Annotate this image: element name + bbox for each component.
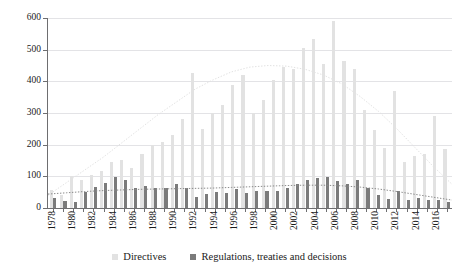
x-axis-tick-label: 1994 [210, 211, 220, 230]
trendline-layer [48, 18, 452, 208]
x-axis-tick-mark [265, 209, 266, 212]
x-axis-tick-mark [285, 209, 286, 212]
x-axis-tick-mark [447, 209, 448, 212]
x-axis-tick-label: 2004 [311, 211, 321, 230]
legend-label: Regulations, treaties and decisions [201, 252, 346, 263]
x-axis-tick-label: 2000 [270, 211, 280, 230]
x-axis-tick-label: 1978 [48, 211, 58, 230]
y-axis-tick-mark [43, 81, 47, 82]
x-axis-tick-mark [366, 209, 367, 212]
y-axis-labels: 0100200300400500600 [0, 0, 41, 273]
x-axis-tick-mark [144, 209, 145, 212]
x-axis-tick-mark [104, 209, 105, 212]
y-axis-tick-label: 400 [27, 76, 41, 86]
legend-swatch-directives [112, 254, 118, 260]
x-axis-tick-label: 2012 [391, 211, 401, 230]
y-axis-tick-label: 0 [36, 203, 41, 213]
x-axis-tick-mark [83, 209, 84, 212]
x-axis-tick-mark [306, 209, 307, 212]
x-axis-labels: 1978198019821984198619881990199219941996… [48, 209, 452, 253]
x-axis-tick-mark [326, 209, 327, 212]
x-axis-tick-label: 1986 [129, 211, 139, 230]
trendline [48, 185, 452, 200]
x-axis-tick-label: 1988 [149, 211, 159, 230]
y-axis-tick-label: 600 [27, 13, 41, 23]
x-axis-tick-label: 1996 [230, 211, 240, 230]
x-axis-tick-mark [386, 209, 387, 212]
x-axis-tick-label: 1992 [189, 211, 199, 230]
y-axis-tick-label: 200 [27, 140, 41, 150]
chart-figure: 0100200300400500600 19781980198219841986… [0, 0, 459, 273]
x-axis-tick-mark [427, 209, 428, 212]
x-axis-tick-label: 2008 [351, 211, 361, 230]
y-axis-tick-label: 300 [27, 108, 41, 118]
y-axis-tick-label: 500 [27, 45, 41, 55]
y-axis-tick-mark [43, 18, 47, 19]
legend-label: Directives [123, 252, 166, 263]
y-axis-tick-mark [43, 208, 47, 209]
y-axis-tick-mark [43, 113, 47, 114]
trendline [48, 66, 452, 196]
x-axis-tick-mark [164, 209, 165, 212]
y-axis-tick-mark [43, 176, 47, 177]
x-axis-tick-label: 2010 [371, 211, 381, 230]
x-axis-tick-label: 1990 [169, 211, 179, 230]
x-axis-tick-label: 1980 [68, 211, 78, 230]
legend-item[interactable]: Directives [112, 252, 166, 263]
x-axis-tick-mark [407, 209, 408, 212]
x-axis-tick-mark [124, 209, 125, 212]
y-axis-tick-mark [43, 50, 47, 51]
chart-legend: DirectivesRegulations, treaties and deci… [0, 252, 459, 263]
x-axis-tick-mark [225, 209, 226, 212]
x-axis-tick-mark [205, 209, 206, 212]
x-axis-tick-label: 2016 [432, 211, 442, 230]
y-axis-tick-mark [43, 145, 47, 146]
x-axis-tick-mark [184, 209, 185, 212]
legend-swatch-regulations [190, 254, 196, 260]
x-axis-tick-label: 2006 [331, 211, 341, 230]
legend-item[interactable]: Regulations, treaties and decisions [190, 252, 346, 263]
x-axis-tick-mark [245, 209, 246, 212]
x-axis-tick-label: 2002 [290, 211, 300, 230]
y-axis-tick-label: 100 [27, 171, 41, 181]
x-axis-tick-mark [346, 209, 347, 212]
x-axis-tick-label: 1982 [88, 211, 98, 230]
x-axis-tick-label: 1984 [109, 211, 119, 230]
x-axis-tick-label: 2014 [412, 211, 422, 230]
x-axis-tick-mark [63, 209, 64, 212]
x-axis-tick-label: 1998 [250, 211, 260, 230]
plot-area [48, 18, 452, 208]
